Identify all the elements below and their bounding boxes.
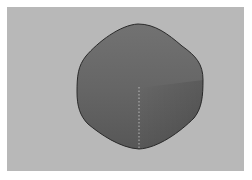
rounded-cube-object[interactable] xyxy=(0,0,252,180)
cube-right-shade xyxy=(139,80,203,149)
